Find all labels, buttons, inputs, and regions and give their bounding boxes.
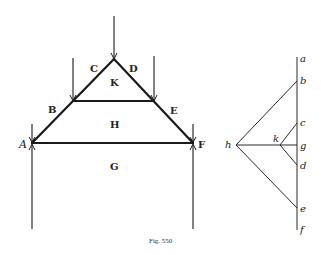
support-reactions xyxy=(29,144,196,229)
label-C: C xyxy=(90,63,98,74)
truss-frame xyxy=(32,59,193,143)
label-c: c xyxy=(300,117,306,128)
truss-figure: C D K B E H A F G a b c g d e f h k Fig.… xyxy=(0,0,321,255)
label-d: d xyxy=(300,160,306,171)
label-k: k xyxy=(273,133,279,144)
label-a: a xyxy=(300,53,306,64)
label-G: G xyxy=(110,161,119,172)
label-g: g xyxy=(300,140,306,151)
label-f: f xyxy=(299,224,306,235)
label-F: F xyxy=(198,139,205,150)
label-e: e xyxy=(300,203,306,214)
ray-k-d xyxy=(280,145,297,165)
ray-k-c xyxy=(280,123,297,145)
label-B: B xyxy=(48,104,56,115)
truss-labels: C D K B E H A F G xyxy=(18,63,205,172)
label-b: b xyxy=(300,75,306,86)
label-E: E xyxy=(170,105,178,116)
figure-caption: Fig. 550 xyxy=(149,237,173,245)
label-D: D xyxy=(129,63,138,74)
label-A: A xyxy=(18,138,27,151)
label-H: H xyxy=(110,119,119,130)
label-K: K xyxy=(110,77,119,88)
label-h: h xyxy=(225,139,231,150)
force-polygon xyxy=(236,57,297,230)
